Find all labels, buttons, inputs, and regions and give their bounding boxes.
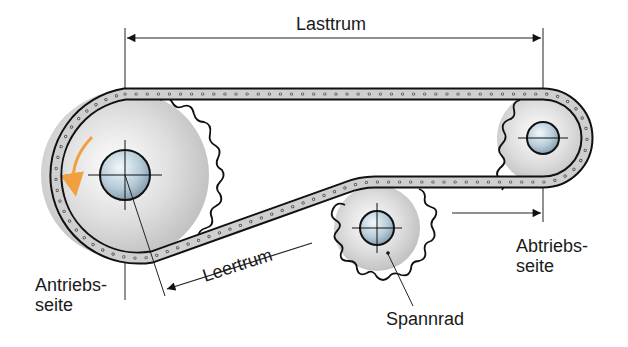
slack-span-label: Leertrum	[200, 245, 275, 286]
driven-side-label-1: Abtriebs-	[516, 236, 588, 256]
tensioner-sprocket	[332, 185, 437, 280]
drive-side-label-1: Antriebs-	[35, 275, 107, 295]
top-span-label: Lasttrum	[296, 14, 366, 34]
driven-side-label-2: seite	[516, 256, 554, 276]
chain-drive-diagram: Leertrum Lasttrum Antriebs- seite Abtrie…	[0, 0, 628, 347]
drive-sprocket	[41, 91, 224, 259]
drive-side-label-2: seite	[35, 295, 73, 315]
tensioner-label: Spannrad	[386, 309, 464, 329]
